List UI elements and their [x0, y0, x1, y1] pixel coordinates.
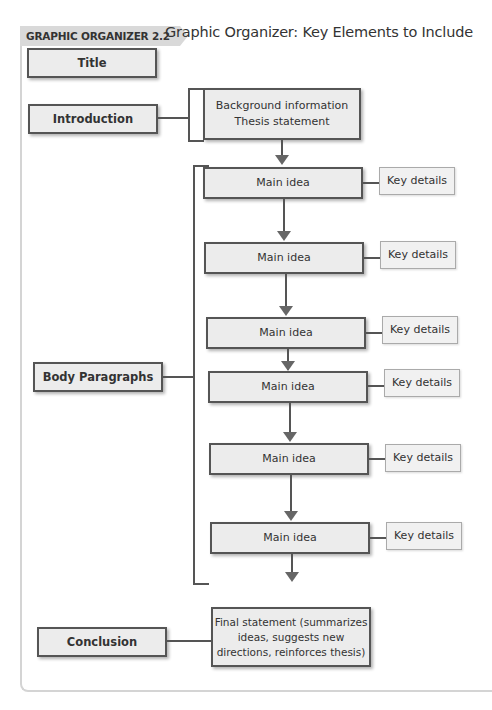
arrow-stem-5	[290, 475, 292, 512]
down-arrow-icon	[279, 306, 293, 316]
intro-line-thesis: Thesis statement	[234, 114, 329, 130]
main-idea-box-1: Main idea	[203, 167, 363, 199]
conclusion-box: Final statement (summarizes ideas, sugge…	[211, 607, 371, 667]
conclusion-line-2: ideas, suggests new	[238, 630, 345, 645]
introduction-box: Background information Thesis statement	[203, 88, 361, 140]
key-details-box-1: Key details	[379, 167, 455, 195]
main-idea-box-3: Main idea	[206, 317, 366, 349]
conclusion-connector	[167, 640, 211, 642]
main-idea-box-4: Main idea	[208, 371, 368, 403]
down-arrow-icon	[281, 361, 295, 371]
section-title: Title	[27, 48, 157, 78]
down-arrow-icon	[277, 231, 291, 241]
intro-bracket	[188, 88, 204, 142]
section-conclusion: Conclusion	[37, 627, 167, 657]
main-idea-box-6: Main idea	[210, 522, 370, 554]
conclusion-line-1: Final statement (summarizes	[215, 615, 368, 630]
key-details-box-2: Key details	[380, 241, 456, 269]
down-arrow-icon	[284, 511, 298, 521]
detail-connector-2	[364, 257, 380, 259]
detail-connector-3	[366, 332, 382, 334]
key-details-box-4: Key details	[384, 369, 460, 397]
down-arrow-icon	[275, 155, 289, 165]
section-introduction: Introduction	[28, 104, 158, 134]
organizer-heading: Graphic Organizer: Key Elements to Inclu…	[165, 24, 473, 40]
key-details-box-3: Key details	[382, 316, 458, 344]
detail-connector-5	[369, 458, 385, 460]
arrow-stem-0	[281, 140, 283, 156]
body-connector	[163, 376, 193, 378]
down-arrow-icon	[283, 432, 297, 442]
intro-connector	[158, 117, 188, 119]
key-details-box-5: Key details	[385, 444, 461, 472]
arrow-stem-2	[285, 274, 287, 307]
section-body-paragraphs: Body Paragraphs	[33, 362, 163, 392]
arrow-stem-4	[289, 403, 291, 433]
key-details-box-6: Key details	[386, 522, 462, 550]
intro-line-background: Background information	[216, 98, 349, 114]
detail-connector-1	[363, 182, 379, 184]
body-bracket	[193, 165, 209, 585]
detail-connector-4	[368, 385, 384, 387]
main-idea-box-5: Main idea	[209, 443, 369, 475]
main-idea-box-2: Main idea	[204, 242, 364, 274]
organizer-badge: GRAPHIC ORGANIZER 2.2	[20, 26, 180, 46]
arrow-stem-6	[291, 554, 293, 573]
arrow-stem-1	[283, 199, 285, 232]
down-arrow-icon	[285, 572, 299, 582]
conclusion-line-3: directions, reinforces thesis)	[217, 645, 366, 660]
detail-connector-6	[370, 537, 386, 539]
